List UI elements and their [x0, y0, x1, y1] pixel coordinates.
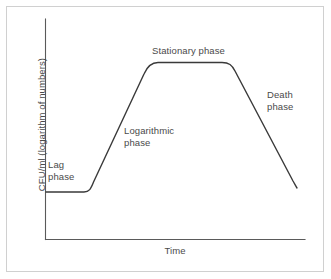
logarithmic-phase-label: Logarithmic phase [124, 125, 174, 148]
growth-curve-figure: CFU/ml (logarithm of numbers) Time Lag p… [0, 0, 331, 279]
lag-phase-label: Lag phase [48, 159, 74, 182]
y-axis-label: CFU/ml (logarithm of numbers) [36, 40, 47, 210]
stationary-phase-label: Stationary phase [152, 45, 225, 57]
x-axis-label: Time [45, 245, 305, 256]
death-phase-label: Death phase [267, 89, 293, 112]
